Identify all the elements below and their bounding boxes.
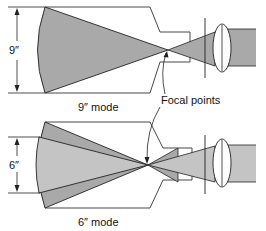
arrow-to-top-focal-point xyxy=(163,53,166,94)
focal-points-label: Focal points xyxy=(161,94,221,106)
arrowhead-icon xyxy=(164,51,169,58)
arrowhead-icon xyxy=(145,157,150,164)
arrow-to-bottom-focal-point xyxy=(147,107,160,161)
intensifier-mode-diagram: 9″ 9″ mode 6″ 6″ mode xyxy=(0,0,266,231)
focal-points-callout: Focal points xyxy=(145,51,221,164)
dimension-label-9-inch: 9″ xyxy=(9,44,19,56)
output-beam-cone-top xyxy=(168,32,215,66)
panel-6-inch-mode: 6″ 6″ mode xyxy=(8,122,256,228)
mode-label-9-inch: 9″ mode xyxy=(78,101,119,113)
input-beam-9-inch xyxy=(38,7,169,93)
dimension-label-6-inch: 6″ xyxy=(9,159,19,171)
mode-label-6-inch: 6″ mode xyxy=(78,216,119,228)
